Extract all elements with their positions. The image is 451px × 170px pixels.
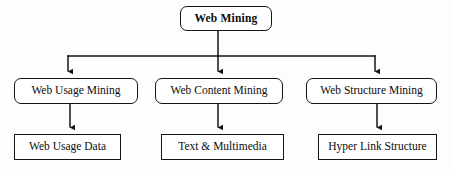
node-web-mining[interactable]: Web Mining: [180, 6, 272, 31]
node-web-usage-mining[interactable]: Web Usage Mining: [14, 78, 138, 104]
node-hyper-link-structure[interactable]: Hyper Link Structure: [318, 134, 437, 160]
node-text-and-multimedia[interactable]: Text & Multimedia: [161, 134, 284, 160]
node-web-structure-mining[interactable]: Web Structure Mining: [306, 78, 437, 104]
node-web-content-mining[interactable]: Web Content Mining: [155, 78, 283, 104]
diagram-canvas: Web Mining Web Usage Mining Web Content …: [0, 0, 451, 170]
node-web-usage-data[interactable]: Web Usage Data: [14, 134, 121, 160]
